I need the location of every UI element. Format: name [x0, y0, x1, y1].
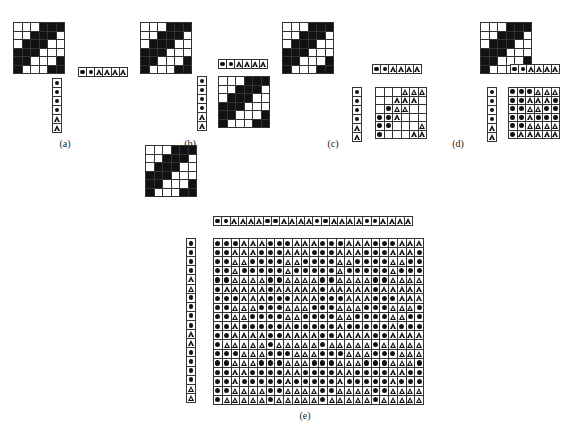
dot-icon	[275, 257, 283, 265]
triangle-icon	[353, 124, 361, 132]
grid-cell	[490, 57, 498, 65]
dot-icon	[219, 60, 226, 68]
grid-cell	[48, 49, 56, 57]
grid-cell	[236, 94, 244, 102]
dot-icon	[319, 257, 327, 265]
dot-icon	[275, 313, 283, 321]
pattern-a	[13, 22, 65, 74]
grid-cell	[167, 49, 175, 57]
grid-cell	[292, 23, 300, 31]
triangle-icon	[535, 88, 543, 96]
dot-icon	[214, 331, 222, 339]
grid-cell	[490, 32, 498, 40]
dot-icon	[319, 294, 327, 302]
grid-cell	[14, 57, 22, 65]
triangle-icon	[260, 60, 267, 68]
triangle-icon	[410, 97, 418, 105]
dot-icon	[267, 285, 275, 293]
grid-cell	[146, 155, 154, 163]
dot-icon	[372, 304, 380, 312]
triangle-icon	[405, 217, 412, 225]
triangle-icon	[354, 359, 362, 367]
triangle-icon	[389, 340, 397, 348]
triangle-icon	[345, 294, 353, 302]
caption-b: (b)	[184, 138, 196, 149]
triangle-icon	[258, 331, 266, 339]
triangle-icon	[337, 285, 345, 293]
grid-cell	[317, 57, 325, 65]
triangle-icon	[552, 122, 560, 130]
dot-icon	[310, 322, 318, 330]
dot-icon	[372, 322, 380, 330]
dot-icon	[518, 105, 526, 113]
dot-icon	[87, 68, 94, 76]
dot-icon	[372, 217, 379, 225]
dot-icon	[372, 294, 380, 302]
dot-icon	[240, 377, 248, 385]
dot-icon	[223, 294, 231, 302]
triangle-icon	[249, 304, 257, 312]
grid-cell	[163, 163, 171, 171]
dot-icon	[258, 377, 266, 385]
dot-icon	[214, 359, 222, 367]
grid-cell	[376, 105, 384, 113]
triangle-icon	[345, 257, 353, 265]
triangle-icon	[407, 387, 415, 395]
triangle-icon	[293, 396, 301, 404]
triangle-icon	[337, 377, 345, 385]
triangle-icon	[328, 340, 336, 348]
dot-icon	[267, 377, 275, 385]
grid-cell	[180, 155, 188, 163]
dot-icon	[372, 359, 380, 367]
triangle-icon	[232, 313, 240, 321]
triangle-icon	[535, 97, 543, 105]
caption-d: (d)	[452, 138, 464, 149]
dot-icon	[267, 387, 275, 395]
triangle-icon	[407, 304, 415, 312]
grid-cell	[158, 49, 166, 57]
dot-icon	[319, 248, 327, 256]
grid-cell	[175, 23, 183, 31]
grid-cell	[172, 146, 180, 154]
dot-icon	[214, 217, 221, 225]
grid-cell	[262, 77, 270, 85]
triangle-icon	[337, 359, 345, 367]
triangle-icon	[415, 350, 423, 358]
triangle-icon	[284, 331, 292, 339]
grid-cell	[309, 66, 317, 74]
grid-cell	[175, 40, 183, 48]
grid-cell	[23, 66, 31, 74]
triangle-icon	[380, 285, 388, 293]
triangle-icon	[389, 313, 397, 321]
caption-c: (c)	[327, 138, 338, 149]
dot-icon	[380, 313, 388, 321]
dot-icon	[275, 267, 283, 275]
dot-icon	[187, 312, 195, 320]
dot-icon	[328, 322, 336, 330]
triangle-icon	[407, 294, 415, 302]
triangle-icon	[258, 285, 266, 293]
triangle-icon	[249, 239, 257, 247]
triangle-icon	[337, 322, 345, 330]
triangle-icon	[239, 217, 246, 225]
dot-icon	[232, 350, 240, 358]
dot-icon	[385, 105, 393, 113]
triangle-icon	[363, 387, 371, 395]
triangle-icon	[552, 65, 559, 73]
grid-cell	[300, 66, 308, 74]
dot-icon	[267, 294, 275, 302]
triangle-icon	[353, 133, 361, 141]
grid-cell	[141, 32, 149, 40]
dot-icon	[267, 267, 275, 275]
grid-cell	[48, 32, 56, 40]
triangle-icon	[398, 285, 406, 293]
grid-cell	[228, 111, 236, 119]
grid-cell	[219, 94, 227, 102]
dot-icon	[214, 368, 222, 376]
dot-icon	[372, 377, 380, 385]
weft-row-b	[218, 59, 268, 69]
dot-icon	[415, 304, 423, 312]
dot-icon	[214, 239, 222, 247]
triangle-icon	[302, 248, 310, 256]
grid-cell	[253, 86, 261, 94]
